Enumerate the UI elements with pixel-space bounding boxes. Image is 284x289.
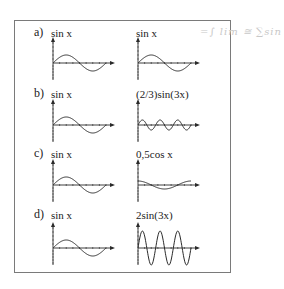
row-1-right-y-arrow-icon [136, 99, 140, 104]
row-1-right-x-arrow-icon [195, 123, 200, 127]
row-0-right-x-arrow-icon [195, 61, 200, 65]
row-0-right-y-arrow-icon [136, 37, 140, 42]
row-2-right-x-arrow-icon [195, 183, 200, 187]
row-2-right-y-arrow-icon [136, 159, 140, 164]
row-1-left-y-arrow-icon [51, 99, 55, 104]
row-0-left-y-arrow-icon [51, 37, 55, 42]
row-2-left-y-arrow-icon [51, 159, 55, 164]
function-graphs [0, 0, 284, 289]
figure-canvas: =∫ lim ≅ ∑sin a) sin x sin x b) sin x (2… [0, 0, 284, 289]
row-3-right-y-arrow-icon [136, 222, 140, 227]
row-3-left-y-arrow-icon [51, 222, 55, 227]
row-2-left-x-arrow-icon [110, 183, 115, 187]
row-3-left-x-arrow-icon [110, 246, 115, 250]
row-3-right-x-arrow-icon [195, 246, 200, 250]
row-1-left-x-arrow-icon [110, 123, 115, 127]
row-0-left-x-arrow-icon [110, 61, 115, 65]
